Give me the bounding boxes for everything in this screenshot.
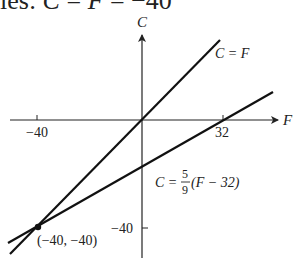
c-axis-label: C — [137, 14, 148, 30]
intersection-label: (−40, −40) — [37, 233, 97, 249]
x-tick-label-32: 32 — [215, 125, 229, 140]
svg-text:C =: C = — [155, 175, 177, 190]
svg-text:9: 9 — [182, 183, 188, 197]
f-axis-label: F — [282, 112, 293, 128]
series-c-equals-f-label: C = F — [215, 46, 250, 61]
temperature-conversion-chart: F C −40 32 −40 C = F C = 5 9 (F − 32) (−… — [0, 0, 301, 258]
series-c-5-9-label: C = 5 9 (F − 32) — [155, 167, 240, 197]
x-tick-label-neg40: −40 — [26, 125, 48, 140]
intersection-point — [35, 224, 41, 230]
svg-text:5: 5 — [182, 167, 188, 181]
series-c-5-9-f-minus-32 — [8, 92, 273, 243]
svg-text:(F − 32): (F − 32) — [191, 175, 240, 191]
y-tick-label-neg40: −40 — [111, 221, 133, 236]
